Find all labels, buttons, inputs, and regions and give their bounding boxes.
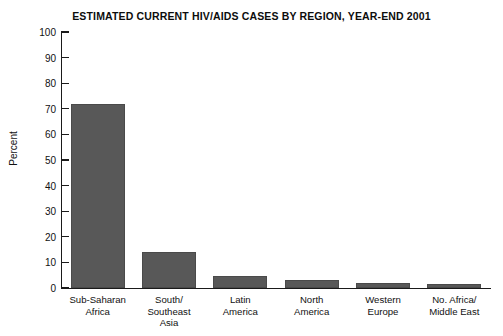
x-axis-label-line: Africa (62, 306, 133, 318)
x-axis-label-line: Sub-Saharan (62, 294, 133, 306)
bar-chart: ESTIMATED CURRENT HIV/AIDS CASES BY REGI… (0, 0, 503, 336)
x-axis-label-line: South/ (133, 294, 204, 306)
bar (356, 283, 410, 288)
bar (285, 280, 339, 288)
bar (213, 276, 267, 288)
x-axis-category-label: WesternEurope (347, 294, 418, 317)
x-axis-label-line: North (276, 294, 347, 306)
y-axis-tick-label: 50 (10, 155, 56, 166)
x-axis-label-line: Western (347, 294, 418, 306)
x-axis-label-line: Southeast (133, 306, 204, 318)
y-axis-tick-label: 60 (10, 129, 56, 140)
x-axis-label-line: America (276, 306, 347, 318)
x-axis-category-label: LatinAmerica (205, 294, 276, 317)
x-axis-label-line: Asia (133, 317, 204, 329)
x-axis-category-label: South/SoutheastAsia (133, 294, 204, 329)
chart-title: ESTIMATED CURRENT HIV/AIDS CASES BY REGI… (0, 10, 503, 22)
y-axis-tick-label: 80 (10, 78, 56, 89)
plot-area (62, 32, 490, 288)
y-axis-tick-label: 30 (10, 206, 56, 217)
y-axis-tick-label: 10 (10, 257, 56, 268)
y-axis-tick-label: 100 (10, 27, 56, 38)
x-axis-category-label: Sub-SaharanAfrica (62, 294, 133, 317)
y-axis-labels: 1009080706050403020100 (0, 0, 56, 336)
x-axis-label-line: No. Africa/ (419, 294, 490, 306)
bar (142, 252, 196, 288)
x-axis-category-label: NorthAmerica (276, 294, 347, 317)
x-axis-line (61, 288, 491, 289)
y-axis-tick-label: 70 (10, 103, 56, 114)
x-axis-label-line: America (205, 306, 276, 318)
y-axis-tick-label: 0 (10, 283, 56, 294)
y-axis-tick-label: 90 (10, 52, 56, 63)
y-axis-tick-label: 20 (10, 231, 56, 242)
bar (71, 104, 125, 288)
x-axis-label-line: Latin (205, 294, 276, 306)
x-axis-label-line: Middle East (419, 306, 490, 318)
x-axis-category-label: No. Africa/Middle East (419, 294, 490, 317)
bar (427, 284, 481, 288)
x-axis-label-line: Europe (347, 306, 418, 318)
y-axis-tick-label: 40 (10, 180, 56, 191)
